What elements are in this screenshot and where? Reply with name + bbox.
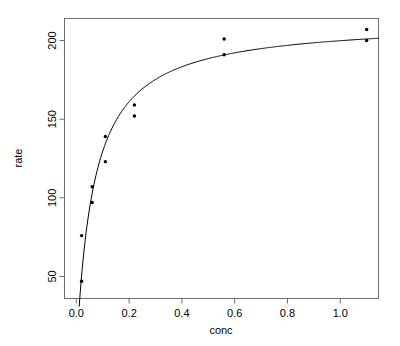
x-tick-label-4: 0.8 [280, 307, 295, 319]
data-point [104, 160, 107, 163]
y-tick-label-1: 100 [46, 189, 58, 207]
data-point [90, 185, 93, 188]
x-tick-label-2: 0.4 [174, 307, 189, 319]
x-tick-label-3: 0.6 [227, 307, 242, 319]
x-axis-title: conc [209, 324, 233, 336]
data-point [133, 103, 136, 106]
data-point [365, 39, 368, 42]
data-point [90, 201, 93, 204]
scatter-plot: 0.00.20.40.60.81.0 50100150200 conc rate [0, 0, 400, 346]
x-tick-label-0: 0.0 [69, 307, 84, 319]
data-point [365, 28, 368, 31]
data-point [80, 280, 83, 283]
y-axis-title: rate [12, 149, 24, 168]
x-tick-label-1: 0.2 [121, 307, 136, 319]
figure-background [0, 0, 400, 346]
data-point [222, 53, 225, 56]
y-tick-label-3: 200 [46, 31, 58, 49]
data-point [80, 234, 83, 237]
chart-figure: 0.00.20.40.60.81.0 50100150200 conc rate [0, 0, 400, 346]
data-point [104, 135, 107, 138]
data-point [222, 37, 225, 40]
x-tick-label-5: 1.0 [333, 307, 348, 319]
data-point [133, 114, 136, 117]
y-tick-label-0: 50 [46, 270, 58, 282]
y-tick-label-2: 150 [46, 110, 58, 128]
